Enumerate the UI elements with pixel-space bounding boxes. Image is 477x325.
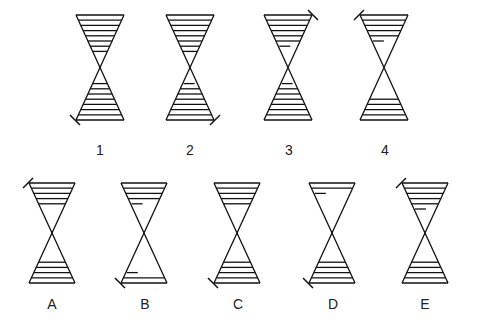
hourglass-figure-D <box>303 183 355 288</box>
hourglass-figure-C <box>208 183 260 288</box>
figure-label-D: D <box>323 296 343 312</box>
figure-label-B: B <box>135 296 155 312</box>
hourglass-figure-1 <box>70 15 124 125</box>
figure-label-1: 1 <box>90 142 110 158</box>
hourglass-figure-E <box>396 178 448 283</box>
hourglass-figure-B <box>115 183 167 288</box>
hourglass-figure-2 <box>166 15 220 125</box>
figure-label-C: C <box>228 296 248 312</box>
figure-label-2: 2 <box>180 142 200 158</box>
figure-label-4: 4 <box>375 142 395 158</box>
hourglass-figure-3 <box>264 10 318 120</box>
hourglass-figure-4 <box>354 10 408 120</box>
hourglass-puzzle-diagram <box>0 0 477 325</box>
hourglass-figure-A <box>23 178 75 283</box>
figure-label-A: A <box>42 296 62 312</box>
figure-label-E: E <box>415 296 435 312</box>
figure-label-3: 3 <box>279 142 299 158</box>
